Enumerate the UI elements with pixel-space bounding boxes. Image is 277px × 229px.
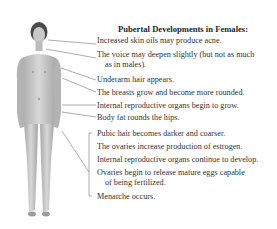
item-underarm-hair: Underarm hair appears. — [97, 75, 174, 85]
item-ovaries-eggs: Ovaries begin to release mature eggs cap… — [97, 168, 245, 187]
item-breasts: The breasts grow and become more rounded… — [97, 88, 245, 98]
item-estrogen: The ovaries increase production of estro… — [97, 142, 243, 152]
female-figure-illustration — [0, 0, 100, 229]
item-body-fat: Body fat rounds the hips. — [97, 113, 180, 123]
item-internal-organs-develop: Internal reproductive organs continue to… — [97, 155, 258, 165]
item-pubic-hair: Pubic hair becomes darker and coarser. — [97, 129, 225, 139]
item-menarche: Menarche occurs. — [97, 192, 155, 202]
item-skin-oils: Increased skin oils may produce acne. — [97, 36, 222, 46]
diagram-title: Pubertal Developments in Females: — [118, 24, 248, 34]
item-voice: The voice may deepen slightly (but not a… — [97, 50, 254, 69]
item-internal-organs-grow: Internal reproductive organs begin to gr… — [97, 101, 239, 111]
